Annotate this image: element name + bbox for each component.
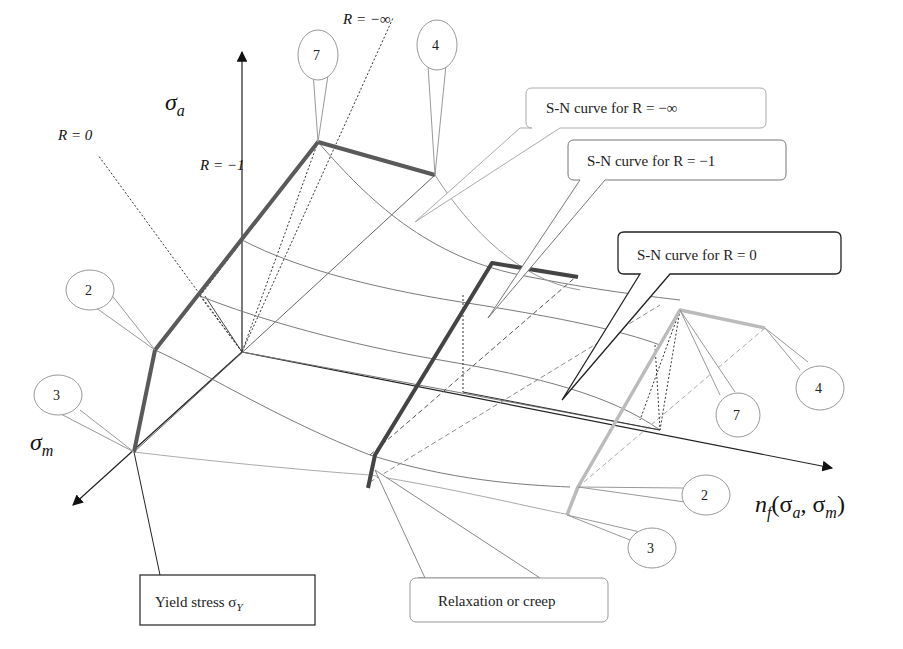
callout-yield: Yield stress σY (134, 452, 315, 625)
relax-dashed-line (370, 275, 578, 455)
marker-4-right-text: 4 (815, 381, 822, 396)
marker-3-left-text: 3 (53, 388, 60, 403)
projection-line (640, 310, 680, 420)
callout-sn-neg-inf-text: S-N curve for R = −∞ (546, 100, 677, 116)
marker-3-left: 3 (34, 375, 134, 452)
marker-3-right-text: 3 (647, 541, 654, 556)
sn-curve-point3 (134, 452, 570, 515)
callout-sn-zero-text: S-N curve for R = 0 (637, 247, 757, 263)
marker-2-left-text: 2 (85, 283, 92, 298)
sigma-m-label: σm (30, 429, 53, 459)
r-neg-inf-label: R = −∞ (342, 11, 391, 27)
sn-curve-point2 (155, 350, 570, 487)
projection-line (242, 142, 318, 352)
loading-path-initial (134, 142, 435, 452)
base-diagonal-line (134, 175, 435, 452)
marker-3-right: 3 (567, 515, 676, 568)
projection-line (655, 345, 660, 430)
r-neg-one-label: R = −1 (199, 157, 244, 173)
marker-7-right-text: 7 (733, 408, 740, 423)
fatigue-diagram: σa σm nf(σa, σm) R = −∞ R = −1 R = 0 S-N… (0, 0, 903, 649)
marker-7-top: 7 (298, 30, 338, 142)
marker-2-right: 2 (578, 475, 730, 515)
callout-relax-text: Relaxation or creep (438, 593, 555, 609)
sigma-a-label: σa (165, 89, 185, 119)
marker-4-top: 4 (417, 20, 457, 175)
nf-label: nf(σa, σm) (755, 491, 845, 522)
loading-path-relaxed (368, 263, 578, 488)
marker-7-right: 7 (680, 310, 760, 437)
r-zero-label: R = 0 (57, 127, 93, 143)
marker-2-right-text: 2 (701, 488, 708, 503)
callout-relax: Relaxation or creep (375, 470, 608, 622)
marker-4-right: 4 (765, 328, 844, 410)
marker-2-left: 2 (66, 270, 155, 350)
marker-7-top-text: 7 (313, 48, 320, 63)
callout-sn-neg-one-text: S-N curve for R = −1 (587, 153, 715, 169)
marker-4-top-text: 4 (432, 38, 439, 53)
